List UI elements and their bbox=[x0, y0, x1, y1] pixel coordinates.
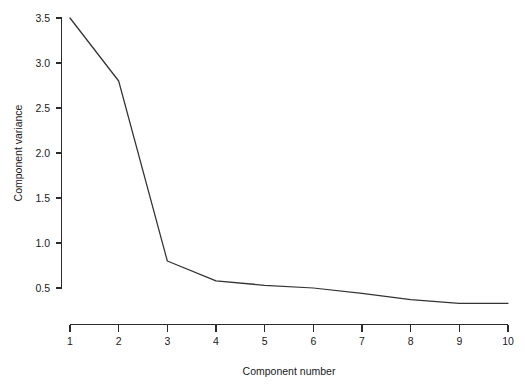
x-axis-title: Component number bbox=[243, 365, 336, 377]
x-tick-label: 6 bbox=[310, 335, 316, 347]
y-tick-label: 1.5 bbox=[35, 192, 50, 204]
y-axis-ticks bbox=[56, 18, 62, 288]
x-axis-ticks bbox=[70, 325, 508, 332]
x-tick-label: 8 bbox=[408, 335, 414, 347]
x-tick-label: 1 bbox=[67, 335, 73, 347]
y-tick-label: 3.5 bbox=[35, 12, 50, 24]
plot-canvas: 0.51.01.52.02.53.03.5 12345678910 Compon… bbox=[0, 0, 525, 388]
y-tick-label: 0.5 bbox=[35, 282, 50, 294]
x-tick-label: 2 bbox=[116, 335, 122, 347]
x-tick-label: 3 bbox=[164, 335, 170, 347]
x-tick-label: 9 bbox=[456, 335, 462, 347]
y-tick-label: 2.5 bbox=[35, 102, 50, 114]
x-tick-label: 7 bbox=[359, 335, 365, 347]
x-tick-label: 5 bbox=[262, 335, 268, 347]
scree-plot-figure: 0.51.01.52.02.53.03.5 12345678910 Compon… bbox=[0, 0, 525, 388]
y-tick-label: 1.0 bbox=[35, 237, 50, 249]
y-axis-title: Component variance bbox=[12, 104, 24, 201]
y-tick-label: 3.0 bbox=[35, 57, 50, 69]
y-axis-tick-labels: 0.51.01.52.02.53.03.5 bbox=[35, 12, 50, 294]
x-axis-tick-labels: 12345678910 bbox=[67, 335, 514, 347]
x-tick-label: 10 bbox=[502, 335, 514, 347]
y-tick-label: 2.0 bbox=[35, 147, 50, 159]
x-tick-label: 4 bbox=[213, 335, 219, 347]
variance-series-line bbox=[70, 18, 508, 303]
